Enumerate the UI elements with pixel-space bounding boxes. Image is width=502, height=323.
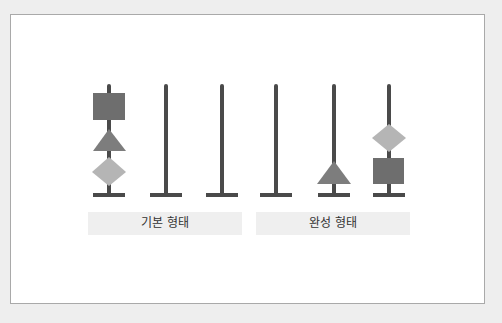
pole-basic-1: [92, 84, 126, 197]
pole-basic-2: [150, 84, 182, 197]
pole-diagram: [0, 0, 502, 323]
pole-basic-3: [206, 84, 238, 197]
triangle-piece: [317, 161, 351, 184]
label-basic-form: 기본 형태: [88, 212, 242, 235]
diamond-piece: [372, 124, 406, 152]
square-piece: [373, 158, 404, 184]
square-piece: [93, 93, 125, 120]
group-basic: [92, 84, 238, 197]
triangle-piece: [93, 129, 126, 151]
pole-complete-1: [260, 84, 292, 197]
group-complete: [260, 84, 406, 197]
diamond-piece: [92, 157, 126, 186]
label-completed-form: 완성 형태: [256, 212, 410, 235]
pole-complete-3: [372, 84, 406, 197]
pole-complete-2: [317, 84, 351, 197]
